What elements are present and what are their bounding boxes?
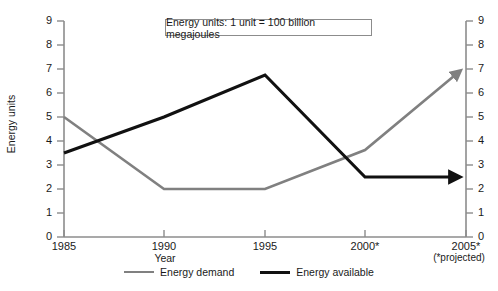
legend-item-energy-available: Energy available bbox=[260, 266, 374, 278]
y-tick-label-right-4: 4 bbox=[478, 134, 484, 146]
y-axis-left-ticks bbox=[57, 21, 64, 237]
y-tick-label-left-5: 5 bbox=[40, 110, 52, 122]
y-tick-label-right-1: 1 bbox=[478, 206, 484, 218]
series-line-energy-available bbox=[64, 75, 459, 177]
y-tick-label-right-5: 5 bbox=[478, 110, 484, 122]
y-tick-label-right-7: 7 bbox=[478, 62, 484, 74]
y-tick-label-right-2: 2 bbox=[478, 182, 484, 194]
y-tick-label-right-9: 9 bbox=[478, 14, 484, 26]
legend-label-energy-demand: Energy demand bbox=[160, 266, 234, 278]
chart-title-box: Energy units: 1 unit = 100 billion megaj… bbox=[165, 19, 372, 36]
legend-swatch-energy-available bbox=[260, 271, 290, 274]
x-tick-label-1985: 1985 bbox=[42, 240, 86, 252]
y-tick-label-left-6: 6 bbox=[40, 86, 52, 98]
y-tick-label-left-1: 1 bbox=[40, 206, 52, 218]
y-tick-label-left-3: 3 bbox=[40, 158, 52, 170]
y-axis-title: Energy units bbox=[5, 89, 17, 159]
x-axis-title: Year bbox=[140, 252, 190, 264]
x-axis-ticks bbox=[64, 230, 466, 237]
x-tick-label-1995: 1995 bbox=[243, 240, 287, 252]
y-tick-label-left-8: 8 bbox=[40, 38, 52, 50]
legend-swatch-energy-demand bbox=[124, 271, 154, 273]
y-tick-label-left-7: 7 bbox=[40, 62, 52, 74]
y-tick-label-left-4: 4 bbox=[40, 134, 52, 146]
y-tick-label-right-3: 3 bbox=[478, 158, 484, 170]
y-axis-right-ticks bbox=[466, 21, 473, 237]
legend-label-energy-available: Energy available bbox=[296, 266, 374, 278]
y-tick-label-left-9: 9 bbox=[40, 14, 52, 26]
y-tick-label-left-2: 2 bbox=[40, 182, 52, 194]
chart-figure: 0 1 2 3 4 5 6 7 8 9 0 1 2 3 4 5 6 7 8 9 … bbox=[0, 0, 498, 291]
y-tick-label-right-8: 8 bbox=[478, 38, 484, 50]
y-tick-label-right-6: 6 bbox=[478, 86, 484, 98]
x-tick-label-2000: 2000* bbox=[343, 240, 387, 252]
x-tick-label-2005: 2005* bbox=[444, 240, 488, 252]
chart-legend: Energy demand Energy available bbox=[0, 266, 498, 278]
projected-footnote: (*projected) bbox=[420, 252, 498, 263]
x-tick-label-1990: 1990 bbox=[142, 240, 186, 252]
legend-item-energy-demand: Energy demand bbox=[124, 266, 234, 278]
